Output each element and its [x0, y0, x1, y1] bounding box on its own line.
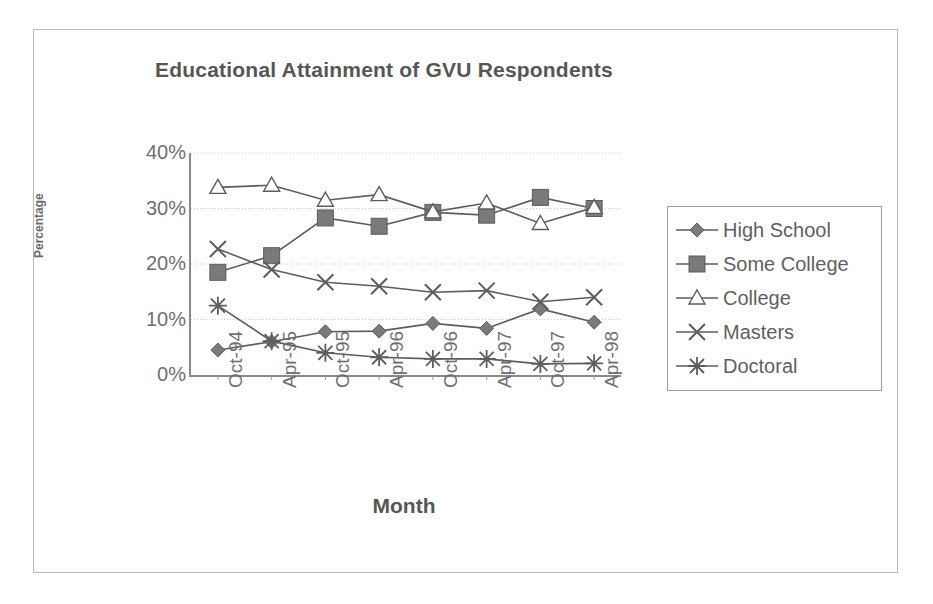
diamond-marker [674, 219, 720, 241]
legend-label: Doctoral [720, 355, 797, 378]
x-tick-label: Apr-96 [386, 331, 408, 388]
legend-item-high-school[interactable]: High School [674, 213, 881, 247]
x-tick-label: Oct-96 [440, 331, 462, 388]
triangle-marker [674, 287, 720, 309]
square-marker [674, 253, 720, 275]
x-tick-label: Oct-94 [225, 331, 247, 388]
y-axis-title: Percentage [32, 193, 46, 258]
y-axis-tick-labels: 40%30%20%10%0% [94, 30, 186, 572]
x-tick-label: Apr-98 [601, 331, 623, 388]
legend-label: College [720, 287, 791, 310]
y-tick-label: 0% [120, 364, 186, 384]
legend-item-college[interactable]: College [674, 281, 881, 315]
legend-item-doctoral[interactable]: Doctoral [674, 349, 881, 383]
chart-figure: Educational Attainment of GVU Respondent… [33, 29, 898, 573]
legend-item-masters[interactable]: Masters [674, 315, 881, 349]
chart-legend: High SchoolSome CollegeCollegeMastersDoc… [667, 206, 882, 391]
x-axis-title: Month [189, 494, 619, 518]
x-axis-tick-labels: Oct-94Apr-95Oct-95Apr-96Oct-96Apr-97Oct-… [189, 384, 629, 494]
legend-label: Masters [720, 321, 794, 344]
x-marker [674, 321, 720, 343]
x-tick-label: Apr-95 [279, 331, 301, 388]
legend-label: High School [720, 219, 831, 242]
y-tick-label: 10% [120, 309, 186, 329]
x-tick-label: Oct-97 [547, 331, 569, 388]
y-tick-label: 40% [120, 142, 186, 162]
legend-item-some-college[interactable]: Some College [674, 247, 881, 281]
asterisk-marker [674, 355, 720, 377]
x-tick-label: Oct-95 [332, 331, 354, 388]
y-tick-label: 20% [120, 253, 186, 273]
legend-label: Some College [720, 253, 849, 276]
y-tick-label: 30% [120, 198, 186, 218]
x-tick-label: Apr-97 [494, 331, 516, 388]
